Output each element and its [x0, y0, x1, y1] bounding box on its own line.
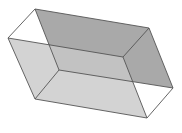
prism-figure [0, 0, 182, 133]
prism-diagram [0, 0, 182, 133]
